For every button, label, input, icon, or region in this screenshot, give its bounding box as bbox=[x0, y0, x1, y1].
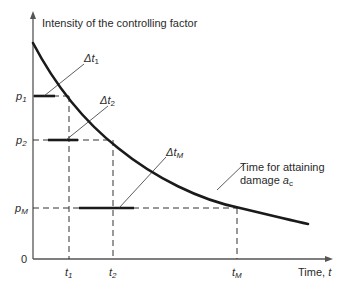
y-axis-arrow-icon bbox=[30, 11, 36, 19]
curve-annotation-prefix: damage bbox=[240, 174, 283, 186]
axes bbox=[33, 16, 328, 259]
x-axis-label-text: Time, bbox=[298, 266, 328, 278]
delta-t1-base: Δt bbox=[84, 52, 94, 64]
delta-tM-sub: M bbox=[176, 151, 183, 160]
y-tick-pM: pM bbox=[15, 202, 28, 214]
leader-lines bbox=[44, 64, 245, 208]
curve-annotation-sub: c bbox=[289, 179, 293, 188]
dashed-guides bbox=[33, 96, 237, 259]
x-tick-t2: t2 bbox=[109, 266, 117, 278]
curve-annotation-line2: damage ac bbox=[240, 174, 325, 187]
y-tick-p2-sub: 2 bbox=[22, 139, 26, 148]
curve-annotation-line1: Time for attaining bbox=[240, 161, 325, 174]
delta-tM-base: Δt bbox=[166, 146, 176, 158]
x-axis-var: t bbox=[328, 266, 331, 278]
x-tick-t2-sub: 2 bbox=[112, 271, 116, 280]
delta-t2-base: Δt bbox=[100, 94, 110, 106]
y-tick-pM-sub: M bbox=[21, 207, 28, 216]
x-axis-label: Time, t bbox=[298, 266, 331, 278]
delta-tM-label: ΔtM bbox=[166, 146, 183, 158]
delta-t2-label: Δt2 bbox=[100, 94, 115, 106]
curve-annotation: Time for attaining damage ac bbox=[240, 161, 325, 187]
x-tick-t1: t1 bbox=[65, 266, 73, 278]
origin-label: 0 bbox=[21, 253, 27, 265]
delta-t1-label: Δt1 bbox=[84, 52, 99, 64]
delta-t2-sub: 2 bbox=[110, 99, 114, 108]
delta-t1-sub: 1 bbox=[94, 57, 98, 66]
x-tick-tM-sub: M bbox=[235, 271, 242, 280]
interval-bars bbox=[34, 96, 134, 208]
y-axis-label: Intensity of the controlling factor bbox=[42, 17, 197, 29]
x-tick-t1-sub: 1 bbox=[68, 271, 72, 280]
y-tick-p2: p2 bbox=[16, 134, 27, 146]
x-tick-tM: tM bbox=[232, 266, 242, 278]
y-tick-p1: p1 bbox=[16, 90, 27, 102]
y-tick-p1-sub: 1 bbox=[22, 95, 26, 104]
x-axis-arrow-icon bbox=[325, 256, 333, 262]
